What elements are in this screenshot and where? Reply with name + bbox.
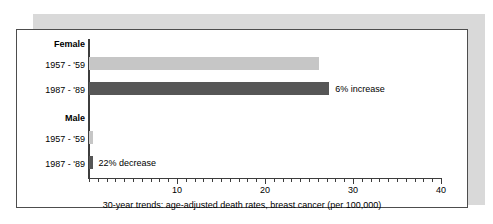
tick-major-30 <box>353 178 354 184</box>
tick-minor-2 <box>107 178 108 182</box>
tick-minor-37 <box>415 178 416 182</box>
tick-minor-17 <box>239 178 240 182</box>
tick-major-20 <box>265 178 266 184</box>
tick-minor-13 <box>203 178 204 182</box>
tick-minor-11 <box>186 178 187 182</box>
tick-minor-34 <box>388 178 389 182</box>
tick-minor-36 <box>406 178 407 182</box>
group-label-male: Male <box>21 113 85 124</box>
tick-minor-14 <box>212 178 213 182</box>
tick-minor-7 <box>151 178 152 182</box>
annotation-female-increase: 6% increase <box>335 84 385 95</box>
tick-minor-4 <box>124 178 125 182</box>
tick-minor-6 <box>142 178 143 182</box>
tick-minor-39 <box>432 178 433 182</box>
tick-label-40: 40 <box>426 185 456 196</box>
tick-major-40 <box>441 178 442 184</box>
tick-minor-0 <box>89 178 90 182</box>
tick-minor-23 <box>291 178 292 182</box>
tick-minor-18 <box>247 178 248 182</box>
tick-minor-26 <box>318 178 319 182</box>
tick-minor-12 <box>195 178 196 182</box>
annotation-male-decrease: 22% decrease <box>99 158 157 169</box>
bar-female-1987 <box>89 82 329 95</box>
tick-minor-24 <box>300 178 301 182</box>
chart-frame: Female 1957 - '59 1987 - '89 Male 1957 -… <box>16 29 468 208</box>
bar-male-1987 <box>89 156 93 169</box>
tick-minor-3 <box>115 178 116 182</box>
tick-minor-38 <box>423 178 424 182</box>
bar-female-1957 <box>89 57 319 70</box>
tick-label-20: 20 <box>250 185 280 196</box>
x-axis-caption: 30-year trends: age-adjusted death rates… <box>17 200 467 211</box>
tick-minor-27 <box>327 178 328 182</box>
tick-major-10 <box>177 178 178 184</box>
category-label-female-1957: 1957 - '59 <box>21 60 85 71</box>
bar-male-1957 <box>89 131 93 144</box>
tick-minor-15 <box>221 178 222 182</box>
category-label-female-1987: 1987 - '89 <box>21 85 85 96</box>
figure-container: Female 1957 - '59 1987 - '89 Male 1957 -… <box>0 0 493 224</box>
tick-minor-29 <box>344 178 345 182</box>
tick-minor-31 <box>362 178 363 182</box>
tick-minor-9 <box>168 178 169 182</box>
tick-minor-8 <box>159 178 160 182</box>
tick-minor-5 <box>133 178 134 182</box>
category-label-male-1957: 1957 - '59 <box>21 134 85 145</box>
tick-minor-33 <box>379 178 380 182</box>
category-label-column: Female 1957 - '59 1987 - '89 Male 1957 -… <box>17 30 85 180</box>
tick-minor-21 <box>274 178 275 182</box>
tick-minor-32 <box>371 178 372 182</box>
tick-label-10: 10 <box>162 185 192 196</box>
tick-label-30: 30 <box>338 185 368 196</box>
tick-minor-28 <box>335 178 336 182</box>
tick-minor-35 <box>397 178 398 182</box>
tick-minor-25 <box>309 178 310 182</box>
bar-chart-plot-area: Female 1957 - '59 1987 - '89 Male 1957 -… <box>17 30 467 207</box>
category-label-male-1987: 1987 - '89 <box>21 159 85 170</box>
tick-minor-19 <box>256 178 257 182</box>
tick-minor-16 <box>230 178 231 182</box>
tick-minor-1 <box>98 178 99 182</box>
tick-minor-22 <box>283 178 284 182</box>
group-label-female: Female <box>21 39 85 50</box>
